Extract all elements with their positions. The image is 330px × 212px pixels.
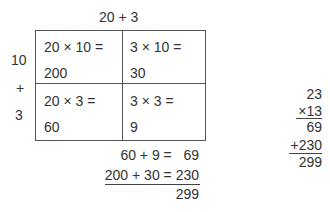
column-multiplier: ×13 [298, 103, 322, 119]
sum-total: 299 [176, 186, 199, 202]
top-label: 20 + 3 [99, 9, 138, 25]
cell-expr: 20 × 10 = [44, 39, 103, 55]
cell-expr: 3 × 3 = [130, 93, 174, 109]
sum-rule [105, 184, 200, 185]
area-model-grid: 20 × 10 = 200 3 × 10 = 30 20 × 3 = 60 3 … [35, 30, 206, 141]
side-label-plus: + [16, 80, 24, 96]
grid-divider-horizontal [36, 83, 205, 84]
column-total: 299 [299, 154, 322, 170]
cell-result: 200 [44, 65, 67, 81]
side-label-ten: 10 [11, 52, 27, 68]
cell-expr: 20 × 3 = [44, 93, 95, 109]
cell-result: 30 [130, 65, 146, 81]
grid-divider-vertical [122, 31, 123, 140]
column-partial-2: +230 [290, 137, 322, 153]
column-partial-1: 69 [306, 119, 322, 135]
cell-result: 9 [130, 119, 138, 135]
column-multiplicand: 23 [306, 86, 322, 102]
sum-line-1: 60 + 9 = 69 [120, 147, 199, 163]
cell-expr: 3 × 10 = [130, 39, 181, 55]
side-label-three: 3 [15, 107, 23, 123]
cell-result: 60 [44, 119, 60, 135]
sum-line-2: 200 + 30 = 230 [105, 167, 199, 183]
